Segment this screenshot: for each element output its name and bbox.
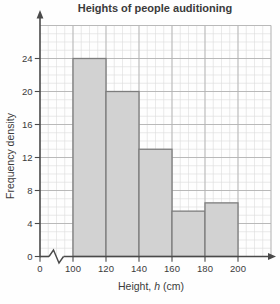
- chart-title: Heights of people auditioning: [40, 2, 270, 14]
- x-axis-title-suffix: (cm): [160, 280, 184, 292]
- y-tick-label-4: 4: [27, 218, 32, 229]
- y-tick-label-20: 20: [22, 86, 33, 97]
- y-tick-label-8: 8: [27, 185, 32, 196]
- y-tick-label-12: 12: [22, 152, 33, 163]
- histogram-bar-120-140: [106, 92, 139, 257]
- x-tick-label-200: 200: [230, 263, 246, 274]
- y-tick-label-24: 24: [22, 53, 33, 64]
- x-tick-label-160: 160: [164, 263, 180, 274]
- histogram-bar-160-180: [172, 211, 205, 256]
- histogram-chart: 048121620240100120140160180200 Heights o…: [0, 0, 280, 304]
- x-axis-arrow-icon: [268, 253, 276, 260]
- histogram-bar-140-160: [139, 149, 172, 256]
- x-tick-label-180: 180: [197, 263, 213, 274]
- histogram-bar-180-200: [205, 203, 238, 257]
- y-tick-label-0: 0: [27, 251, 32, 262]
- x-axis-title-prefix: Height,: [118, 280, 154, 292]
- chart-canvas: 048121620240100120140160180200: [0, 0, 280, 304]
- histogram-bar-100-120: [73, 59, 106, 257]
- x-tick-label-0: 0: [37, 263, 42, 274]
- x-tick-label-120: 120: [98, 263, 114, 274]
- x-tick-label-100: 100: [65, 263, 81, 274]
- x-tick-label-140: 140: [131, 263, 147, 274]
- x-axis-title: Height, h (cm): [40, 280, 262, 292]
- y-axis-title: Frequency density: [4, 91, 18, 221]
- y-tick-label-16: 16: [22, 119, 33, 130]
